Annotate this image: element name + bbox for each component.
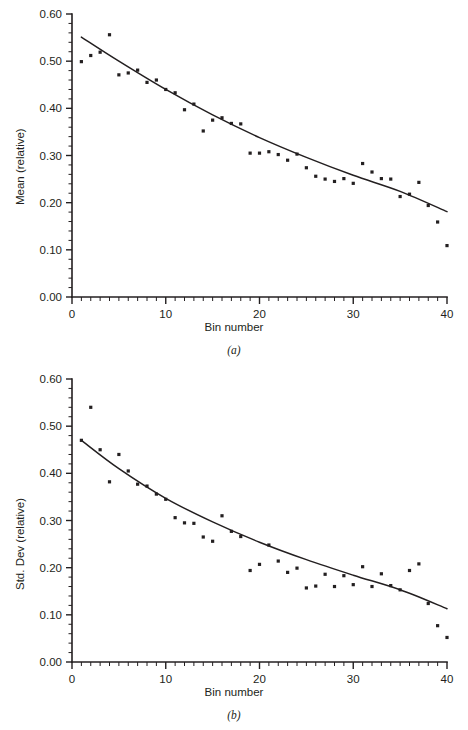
y-tick-label: 0.50 <box>40 420 62 432</box>
data-point <box>192 522 195 525</box>
data-point <box>211 119 214 122</box>
y-axis-title-a: Mean (relative) <box>14 128 26 205</box>
data-point <box>145 484 148 487</box>
data-point <box>89 54 92 57</box>
data-point <box>389 177 392 180</box>
y-tick-label: 0.20 <box>40 197 62 209</box>
data-point <box>380 177 383 180</box>
data-point <box>445 636 448 639</box>
data-point <box>361 162 364 165</box>
data-point <box>108 480 111 483</box>
data-point <box>202 535 205 538</box>
data-point <box>436 624 439 627</box>
y-tick-label: 0.30 <box>40 515 62 527</box>
x-tick-label: 30 <box>347 673 360 685</box>
data-point <box>239 535 242 538</box>
y-tick-label: 0.20 <box>40 562 62 574</box>
data-point <box>389 584 392 587</box>
data-point <box>342 574 345 577</box>
data-point <box>239 122 242 125</box>
data-point <box>258 563 261 566</box>
x-tick-label: 10 <box>159 308 172 320</box>
data-point <box>174 91 177 94</box>
data-point <box>399 195 402 198</box>
x-tick-label: 10 <box>159 673 172 685</box>
x-tick-label: 0 <box>69 673 75 685</box>
data-point <box>286 571 289 574</box>
data-point <box>183 521 186 524</box>
x-tick-label: 0 <box>69 308 75 320</box>
panel-b: 0.000.100.200.300.400.500.60010203040 Bi… <box>0 365 468 730</box>
data-point <box>427 602 430 605</box>
data-point <box>80 60 83 63</box>
data-point <box>202 129 205 132</box>
x-tick-label: 20 <box>253 673 266 685</box>
data-point <box>127 469 130 472</box>
plot-area-b: 0.000.100.200.300.400.500.60010203040 <box>0 365 468 685</box>
y-tick-label: 0.10 <box>40 609 62 621</box>
axes-group: 0.000.100.200.300.400.500.60010203040 <box>40 8 454 320</box>
data-point <box>117 453 120 456</box>
data-point <box>305 166 308 169</box>
data-point <box>361 565 364 568</box>
data-point <box>127 71 130 74</box>
data-point <box>370 170 373 173</box>
data-point <box>258 152 261 155</box>
x-axis-title-a: Bin number <box>0 321 468 333</box>
data-point <box>286 159 289 162</box>
data-point <box>277 559 280 562</box>
y-tick-label: 0.50 <box>40 55 62 67</box>
data-point <box>211 540 214 543</box>
data-point <box>267 150 270 153</box>
plot-area-a: 0.000.100.200.300.400.500.60010203040 <box>0 0 468 320</box>
data-point <box>117 73 120 76</box>
data-point <box>314 175 317 178</box>
data-point <box>436 220 439 223</box>
data-point <box>267 543 270 546</box>
data-point <box>277 153 280 156</box>
data-point <box>295 152 298 155</box>
data-point <box>427 204 430 207</box>
data-point <box>183 108 186 111</box>
x-axis-title-b: Bin number <box>0 686 468 698</box>
data-point <box>408 569 411 572</box>
data-point <box>445 244 448 247</box>
data-point <box>314 584 317 587</box>
data-point <box>380 572 383 575</box>
y-tick-label: 0.60 <box>40 373 62 385</box>
data-point <box>164 498 167 501</box>
axes-group: 0.000.100.200.300.400.500.60010203040 <box>40 373 454 685</box>
y-axis-title-b: Std. Dev (relative) <box>14 498 26 590</box>
data-point <box>164 88 167 91</box>
data-point <box>249 152 252 155</box>
data-point <box>99 448 102 451</box>
data-point <box>295 567 298 570</box>
data-point <box>324 177 327 180</box>
y-tick-label: 0.10 <box>40 244 62 256</box>
data-point <box>155 492 158 495</box>
data-point <box>399 588 402 591</box>
data-point <box>145 81 148 84</box>
y-tick-label: 0.60 <box>40 8 62 20</box>
data-point <box>192 102 195 105</box>
y-tick-label: 0.40 <box>40 102 62 114</box>
y-tick-label: 0.40 <box>40 467 62 479</box>
data-point <box>230 530 233 533</box>
x-tick-label: 40 <box>441 308 454 320</box>
data-point <box>220 116 223 119</box>
data-point <box>352 182 355 185</box>
y-tick-label: 0.00 <box>40 291 62 303</box>
x-tick-label: 40 <box>441 673 454 685</box>
data-point <box>408 193 411 196</box>
data-point <box>174 516 177 519</box>
data-point <box>230 122 233 125</box>
data-point <box>249 569 252 572</box>
figure-container: 0.000.100.200.300.400.500.60010203040 Bi… <box>0 0 468 730</box>
data-point <box>417 181 420 184</box>
data-point <box>155 78 158 81</box>
data-points-group <box>80 406 449 639</box>
data-point <box>324 573 327 576</box>
data-point <box>108 33 111 36</box>
fit-curve <box>81 440 447 608</box>
x-tick-label: 20 <box>253 308 266 320</box>
